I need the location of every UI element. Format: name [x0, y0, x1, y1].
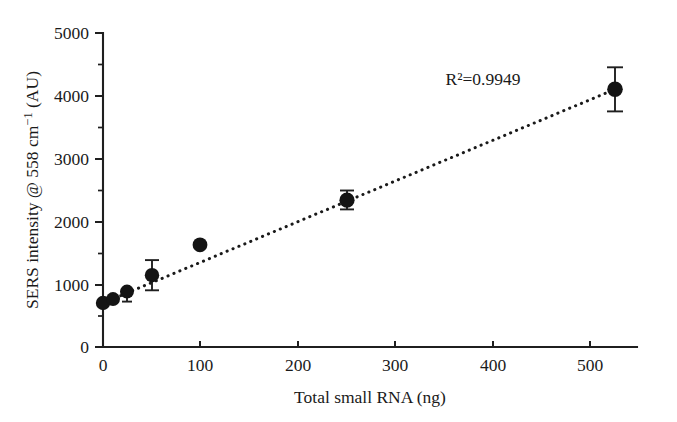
y-axis-title-main: SERS intensity @ 558 cm [22, 125, 42, 309]
r-squared-text: R²=0.9949 [446, 69, 521, 89]
x-tick-label-300: 300 [382, 355, 409, 375]
x-tick-label-400: 400 [480, 355, 507, 375]
y-tick-label-0: 0 [80, 337, 89, 357]
y-tick-label-1000: 1000 [54, 275, 89, 295]
x-axis-tick-labels: 0 100 200 300 400 500 [99, 355, 604, 375]
data-points-group [96, 82, 623, 311]
data-point-250ng [339, 193, 354, 208]
x-tick-label-100: 100 [187, 355, 214, 375]
svg-text:SERS intensity @ 558 cm−1 (AU): SERS intensity @ 558 cm−1 (AU) [21, 71, 42, 309]
y-axis-title-units: (AU) [22, 71, 42, 112]
data-point-500ng [607, 82, 623, 98]
r-squared-annotation: R²=0.9949 [446, 69, 521, 89]
y-tick-label-2000: 2000 [54, 212, 89, 232]
y-tick-label-3000: 3000 [54, 149, 89, 169]
y-tick-label-5000: 5000 [54, 23, 89, 43]
x-axis-title: Total small RNA (ng) [294, 387, 446, 407]
y-axis-title: SERS intensity @ 558 cm−1 (AU) [21, 71, 42, 309]
data-point-25ng [120, 285, 134, 299]
x-tick-label-0: 0 [99, 355, 108, 375]
y-axis-tick-labels: 5000 4000 3000 2000 1000 0 [54, 23, 89, 357]
scatter-plot-figure: 5000 4000 3000 2000 1000 0 0 100 200 300… [0, 0, 677, 422]
plot-canvas: 5000 4000 3000 2000 1000 0 0 100 200 300… [0, 0, 677, 422]
x-tick-label-500: 500 [577, 355, 604, 375]
axes-group [103, 33, 637, 347]
x-axis-major-ticks [103, 339, 590, 347]
data-point-100ng [193, 237, 208, 252]
error-bars-group [122, 67, 623, 301]
x-tick-label-200: 200 [285, 355, 312, 375]
data-point-10ng [106, 292, 120, 306]
linear-fit-line [103, 89, 615, 303]
y-tick-label-4000: 4000 [54, 86, 89, 106]
data-point-50ng [145, 268, 159, 282]
y-axis-title-superscript: −1 [21, 112, 35, 125]
